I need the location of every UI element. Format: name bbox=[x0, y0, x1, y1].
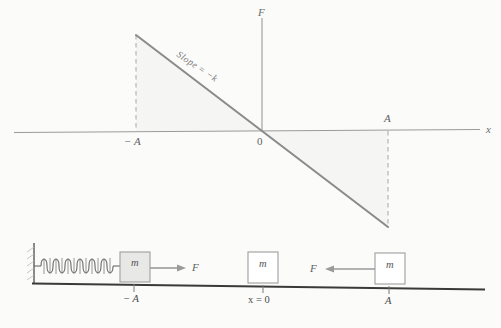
y-axis-label: F bbox=[258, 7, 265, 18]
block-2-mass-label: m bbox=[259, 259, 267, 270]
origin-label: 0 bbox=[257, 136, 263, 147]
x-tick-label-minus-A: − A bbox=[124, 136, 141, 147]
block-1-mass-label: m bbox=[131, 258, 139, 269]
block-1-position-label: − A bbox=[123, 294, 139, 305]
block-1-force-label: F bbox=[192, 262, 199, 273]
wall-hatching bbox=[27, 247, 34, 280]
x-axis-label: x bbox=[486, 124, 491, 135]
figure-canvas bbox=[0, 0, 501, 328]
block-3-position-label: A bbox=[385, 296, 391, 307]
block-3-force-label: F bbox=[310, 263, 317, 274]
force-arrow-right bbox=[150, 265, 186, 272]
ground-line bbox=[32, 284, 485, 290]
block-2-position-label: x = 0 bbox=[248, 295, 270, 306]
force-arrow-left bbox=[325, 266, 375, 273]
physics-figure: F x − A 0 A Slope = −k m F − A m x = 0 m… bbox=[0, 0, 501, 328]
spring bbox=[34, 259, 120, 273]
block-3-mass-label: m bbox=[386, 260, 394, 271]
x-tick-label-A: A bbox=[384, 113, 391, 124]
